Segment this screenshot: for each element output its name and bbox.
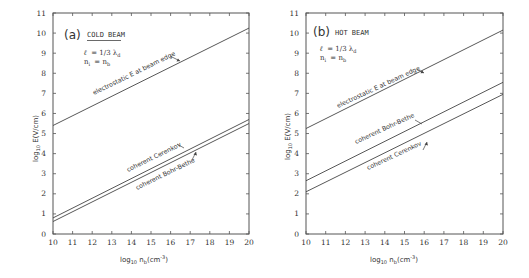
x-tick-label: 10 [301,238,311,247]
y-tick-label: 4 [294,149,299,158]
y-tick-label: 6 [294,109,299,118]
y-tick-label: 0 [41,230,46,239]
axis-ticks-a [53,13,249,234]
series-line [306,94,503,191]
x-tick-label: 19 [479,238,489,247]
arrowhead-icon [425,142,429,146]
x-tick-label: 19 [225,238,235,247]
tick-labels-a: 101112131415161718192001234567891011 [36,9,254,248]
x-tick-label: 18 [205,238,215,247]
x-tick-label: 13 [360,238,370,247]
y-tick-label: 1 [294,209,299,218]
arrowhead-icon [177,59,181,62]
x-tick-label: 17 [439,238,449,247]
param-n-a: ni = nb [84,58,110,68]
x-tick-label: 16 [419,238,429,247]
y-axis-label-b: log10 E(V/cm) [284,113,293,160]
y-tick-label: 2 [41,189,46,198]
y-tick-label: 7 [41,89,46,98]
x-tick-label: 10 [48,238,58,247]
y-tick-label: 5 [294,129,299,138]
y-tick-label: 10 [36,29,46,38]
param-l-b: ℓ = 1/3 λd [319,44,357,54]
figure: 101112131415161718192001234567891011 (a)… [0,0,529,278]
y-tick-label: 4 [41,149,46,158]
x-tick-label: 17 [185,238,195,247]
x-tick-label: 11 [68,238,78,247]
x-axis-label-b: log10 nb(cm-3) [370,254,418,265]
param-l-a: ℓ = 1/3 λd [83,48,121,58]
x-tick-label: 16 [166,238,176,247]
x-tick-label: 12 [341,238,351,247]
y-tick-label: 9 [41,49,46,58]
x-tick-label: 14 [380,238,390,247]
x-tick-label: 15 [146,238,156,247]
panel-tag-a: (a) [64,28,81,42]
annotation-electrostatic-b: electrostatic E at beam edge [335,64,421,110]
x-tick-label: 15 [400,238,410,247]
y-tick-label: 8 [41,69,46,78]
series-line [53,28,249,125]
y-tick-label: 0 [294,230,299,239]
x-tick-label: 11 [321,238,331,247]
y-tick-label: 2 [294,189,299,198]
y-tick-label: 3 [41,169,46,178]
arrow-bohr-b [415,120,422,124]
y-tick-label: 6 [41,109,46,118]
arrowhead-icon [194,152,198,156]
x-axis-label-a: log10 nb(cm-3) [120,254,168,265]
series-line [53,124,249,222]
series-lines-a [53,28,249,221]
y-tick-label: 9 [294,49,299,58]
x-tick-label: 14 [127,238,137,247]
panel-title-b: HOT BEAM [335,29,369,37]
y-tick-label: 1 [41,209,46,218]
y-tick-label: 5 [41,129,46,138]
y-tick-label: 10 [289,29,299,38]
x-tick-label: 12 [87,238,97,247]
y-tick-label: 11 [289,9,299,18]
panel-tag-b: (b) [313,25,330,39]
y-axis-label-a: log10 E(V/cm) [32,115,41,162]
series-line [306,82,503,180]
x-tick-label: 13 [107,238,117,247]
annotation-bohr-b: coherent Bohr-Bethe [353,111,415,145]
series-line [53,119,249,217]
panel-title-a: COLD BEAM [87,31,125,39]
y-tick-label: 11 [36,9,46,18]
annotation-cerenkov-b: coherent Cerenkov [365,139,422,171]
plot-frame-a [53,13,249,234]
y-tick-label: 3 [294,169,299,178]
panel-b: 101112131415161718192001234567891011 (b)… [284,9,508,266]
x-tick-label: 20 [244,238,254,247]
y-tick-label: 7 [294,89,299,98]
x-tick-label: 18 [459,238,469,247]
x-tick-label: 20 [498,238,508,247]
panel-a: 101112131415161718192001234567891011 (a)… [32,9,254,266]
param-n-b: ni = nb [320,54,346,64]
y-tick-label: 8 [294,69,299,78]
